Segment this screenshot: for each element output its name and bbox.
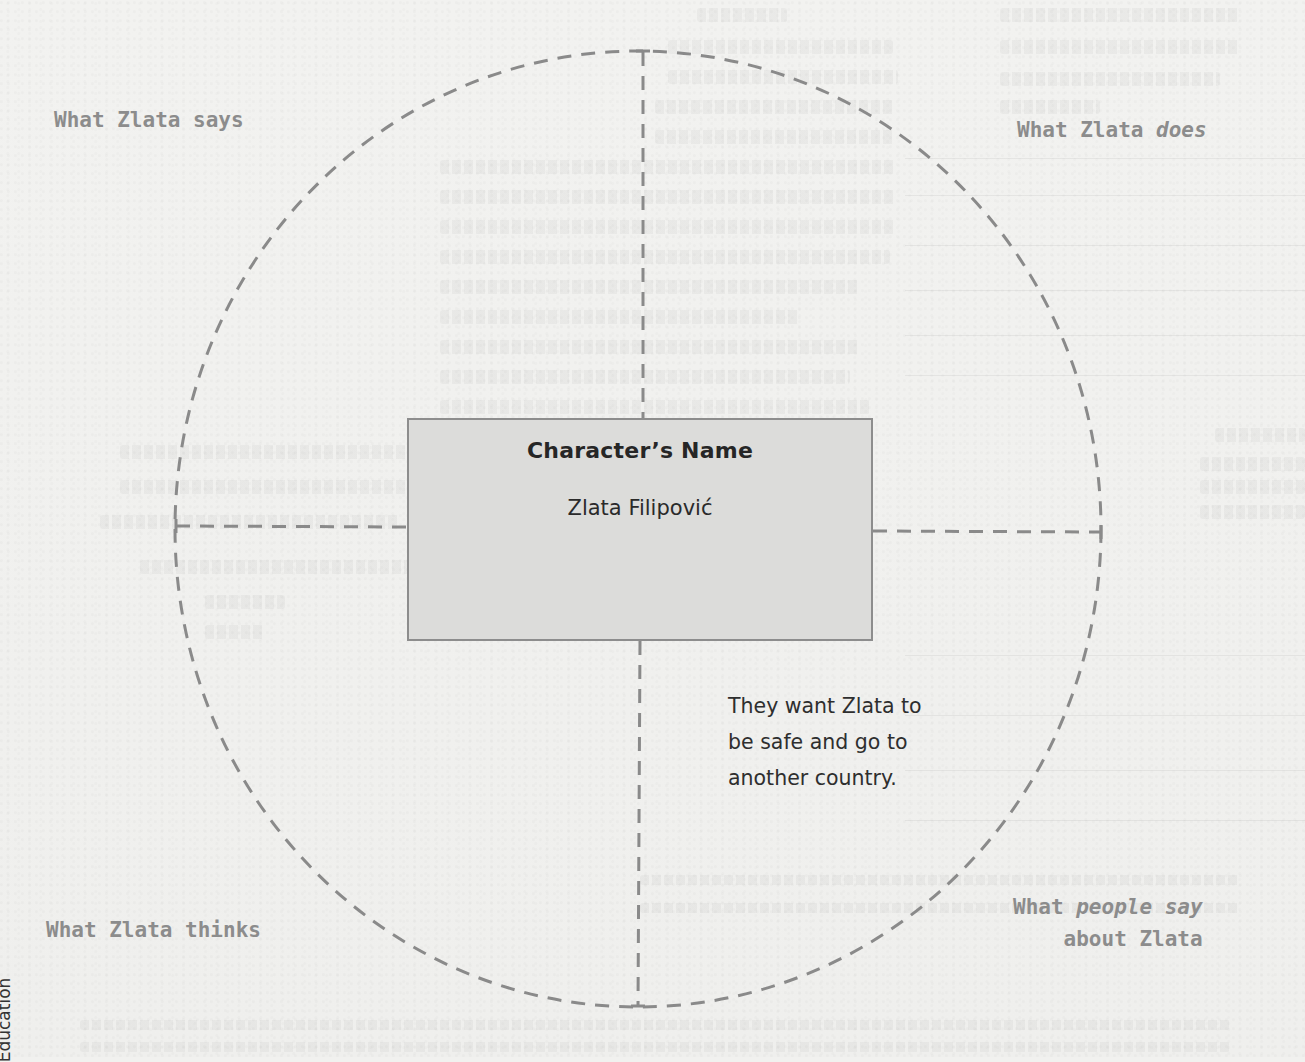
quadrant-label-people-say-emphasis: people say xyxy=(1076,895,1202,919)
answer-line: be safe and go to xyxy=(728,724,922,760)
quadrant-label-thinks: What Zlata thinks xyxy=(46,918,261,942)
quadrant-label-does-prefix: What Zlata xyxy=(1017,118,1156,142)
character-name-value: Zlata Filipović xyxy=(409,496,871,520)
character-name-heading: Character’s Name xyxy=(409,438,871,463)
quadrant-label-people-say-line2: about Zlata xyxy=(1013,923,1203,955)
quadrant-label-says: What Zlata says xyxy=(54,108,244,132)
quadrant-label-people-say-prefix: What xyxy=(1013,895,1076,919)
answer-line: They want Zlata to xyxy=(728,688,922,724)
divider-horizontal-right xyxy=(873,531,1100,532)
answer-line: another country. xyxy=(728,760,922,796)
quadrant-label-does-emphasis: does xyxy=(1156,118,1207,142)
divider-vertical-bottom xyxy=(638,641,640,1006)
margin-side-text: Education xyxy=(0,978,14,1062)
divider-horizontal-left xyxy=(176,526,407,527)
character-name-box: Character’s Name Zlata Filipović xyxy=(407,418,873,641)
answer-people-say: They want Zlata to be safe and go to ano… xyxy=(728,688,922,796)
quadrant-label-people-say: What people say about Zlata xyxy=(1013,891,1203,955)
quadrant-label-does: What Zlata does xyxy=(1017,118,1207,142)
quadrant-label-people-say-line1: What people say xyxy=(1013,891,1203,923)
